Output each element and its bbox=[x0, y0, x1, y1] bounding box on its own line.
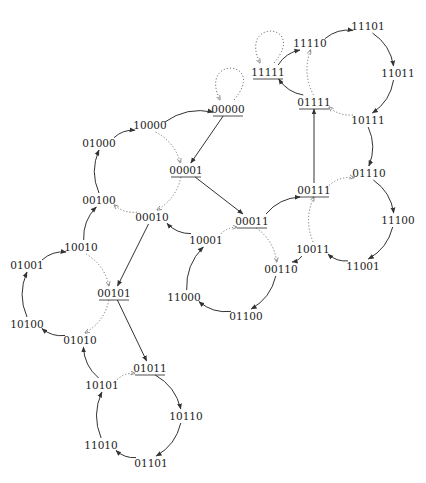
edge-01001-to-10010 bbox=[42, 252, 66, 260]
nodes-layer: 0000010000010000000100100000101000100011… bbox=[10, 20, 414, 469]
node-01100: 01100 bbox=[229, 310, 262, 322]
edge-00110-to-01100 bbox=[251, 276, 276, 309]
edge-10101-to-01010 bbox=[83, 347, 98, 378]
edge-11111-to-11111 bbox=[256, 31, 284, 63]
node-11101: 11101 bbox=[351, 20, 384, 32]
edge-00101-to-01011 bbox=[117, 300, 146, 361]
node-00011: 00011 bbox=[235, 215, 268, 227]
edge-10111-to-01111 bbox=[329, 107, 353, 115]
edge-00100-to-01000 bbox=[94, 150, 99, 193]
edge-00101-to-01010 bbox=[85, 300, 109, 333]
edge-10000-to-00001 bbox=[156, 132, 181, 163]
edge-10110-to-01101 bbox=[156, 423, 181, 456]
node-10001: 10001 bbox=[189, 234, 222, 246]
edge-01000-to-10000 bbox=[114, 130, 135, 138]
edge-10011-to-00110 bbox=[292, 256, 302, 262]
edge-11001-to-10011 bbox=[328, 254, 348, 261]
node-00110: 00110 bbox=[264, 263, 297, 275]
edge-01010-to-10100 bbox=[42, 329, 65, 336]
node-11001: 11001 bbox=[346, 260, 379, 272]
edge-11110-to-11101 bbox=[325, 30, 353, 39]
edge-00000-to-00000 bbox=[216, 68, 244, 100]
node-10010: 10010 bbox=[64, 241, 97, 253]
edge-01111-to-11111 bbox=[279, 79, 304, 95]
node-01010: 01010 bbox=[63, 334, 96, 346]
edge-11000-to-10001 bbox=[187, 247, 204, 290]
node-01000: 01000 bbox=[82, 137, 115, 149]
node-11110: 11110 bbox=[293, 37, 326, 49]
edge-01101-to-11010 bbox=[116, 450, 136, 457]
node-00111: 00111 bbox=[297, 184, 330, 196]
edge-01100-to-11000 bbox=[199, 302, 231, 312]
edge-11100-to-11001 bbox=[368, 227, 392, 259]
edge-11010-to-10101 bbox=[96, 392, 101, 438]
node-01110: 01110 bbox=[352, 167, 385, 179]
node-00001: 00001 bbox=[169, 164, 202, 176]
edge-10001-to-00011 bbox=[221, 227, 237, 234]
node-11100: 11100 bbox=[381, 214, 414, 226]
edge-01011-to-10110 bbox=[155, 375, 181, 409]
edge-00011-to-00110 bbox=[256, 228, 277, 262]
node-10011: 10011 bbox=[296, 243, 329, 255]
edge-11101-to-11011 bbox=[372, 33, 393, 66]
node-00101: 00101 bbox=[97, 287, 130, 299]
edge-10111-to-01110 bbox=[368, 127, 373, 166]
edge-00111-to-01110 bbox=[329, 177, 354, 185]
node-01101: 01101 bbox=[134, 457, 167, 469]
edge-00001-to-00010 bbox=[157, 177, 181, 210]
node-10000: 10000 bbox=[133, 119, 166, 131]
edge-01110-to-11100 bbox=[373, 180, 393, 213]
edge-00011-to-00111 bbox=[266, 197, 300, 214]
edge-10000-to-00000 bbox=[165, 111, 213, 122]
node-00000: 00000 bbox=[211, 103, 244, 115]
node-00100: 00100 bbox=[82, 194, 115, 206]
node-11000: 11000 bbox=[167, 291, 200, 303]
node-10110: 10110 bbox=[169, 410, 202, 422]
edge-00000-to-00001 bbox=[191, 116, 223, 163]
node-01001: 01001 bbox=[10, 259, 43, 271]
node-10111: 10111 bbox=[351, 114, 384, 126]
edge-00010-to-00101 bbox=[118, 224, 149, 286]
edge-00001-to-00011 bbox=[195, 177, 243, 214]
node-11011: 11011 bbox=[381, 67, 414, 79]
node-10101: 10101 bbox=[85, 379, 118, 391]
edge-10011-to-00111 bbox=[309, 197, 314, 242]
edge-10010-to-00100 bbox=[84, 207, 97, 240]
edge-10101-to-01011 bbox=[117, 373, 135, 379]
node-01111: 01111 bbox=[297, 96, 330, 108]
edge-10100-to-01001 bbox=[22, 272, 27, 317]
edge-10001-to-00010 bbox=[167, 223, 191, 233]
node-00010: 00010 bbox=[135, 211, 168, 223]
edge-10010-to-00101 bbox=[86, 254, 109, 286]
state-graph: 0000010000010000000100100000101000100011… bbox=[0, 0, 426, 483]
edge-00010-to-00100 bbox=[114, 205, 137, 213]
node-11010: 11010 bbox=[84, 439, 117, 451]
node-10100: 10100 bbox=[10, 318, 43, 330]
node-11111: 11111 bbox=[251, 66, 284, 78]
edge-11011-to-10111 bbox=[372, 80, 393, 113]
node-01011: 01011 bbox=[133, 362, 166, 374]
edge-01111-to-11110 bbox=[307, 50, 314, 95]
